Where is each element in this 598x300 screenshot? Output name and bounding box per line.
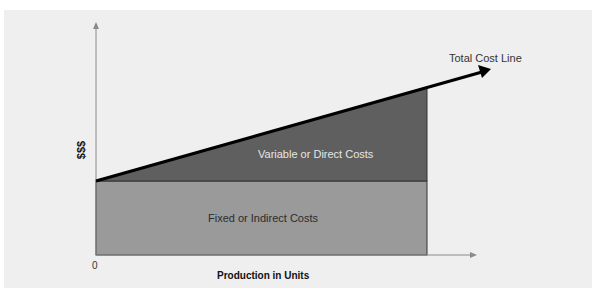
y-axis-arrow-icon <box>93 22 99 29</box>
y-axis-label: $$$ <box>75 135 87 165</box>
origin-label: 0 <box>92 260 98 271</box>
x-axis-label: Production in Units <box>217 270 309 281</box>
fixed-costs-label: Fixed or Indirect Costs <box>208 212 318 224</box>
total-cost-line-label: Total Cost Line <box>449 52 522 64</box>
x-axis-arrow-icon <box>470 252 477 258</box>
variable-costs-label: Variable or Direct Costs <box>258 148 373 160</box>
